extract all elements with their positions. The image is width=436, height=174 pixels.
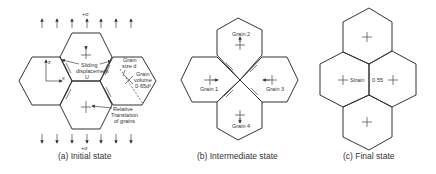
tensile-stress-arrows-bottom	[42, 134, 131, 143]
grain-volume-annotation: Grain volume 0·65d³	[120, 69, 152, 104]
grain-3-label: Grain 3	[266, 86, 284, 92]
panel-b-intermediate-state: Grain 2 Grain 1 Grain 3 Grain 4 (b) Inte…	[181, 18, 298, 161]
grain-3	[240, 57, 298, 102]
strain-value: 0·55	[372, 77, 383, 83]
svg-text:z: z	[48, 59, 51, 65]
grain-4	[217, 80, 262, 140]
grain-4-label: Grain 4	[232, 123, 250, 129]
grain-2	[217, 18, 262, 80]
grain-size-annotation: Grain size d	[122, 57, 136, 76]
panel-a-initial-state: +σ +σ	[19, 11, 156, 161]
svg-text:displacement: displacement	[76, 68, 109, 74]
caption-b: (b) Intermediate state	[197, 151, 278, 161]
svg-text:U: U	[85, 74, 89, 80]
panel-c-final-state: Strain 0·55 (c) Final state	[320, 8, 416, 161]
grain-bottom	[343, 95, 392, 150]
svg-text:of grains: of grains	[114, 118, 135, 124]
caption-c: (c) Final state	[343, 151, 395, 161]
tensile-stress-arrows-top	[42, 19, 131, 28]
grain-centers	[338, 32, 398, 127]
grain-1-label: Grain 1	[200, 86, 218, 92]
strain-label: Strain	[350, 77, 364, 83]
caption-a: (a) Initial state	[58, 151, 112, 161]
svg-text:size d: size d	[122, 63, 136, 69]
relative-translation-annotation: Relative Translation of grains	[92, 106, 138, 124]
grain-boundary-sliding-diagram: +σ +σ	[0, 0, 436, 174]
stress-label-top: +σ	[82, 11, 89, 17]
svg-text:0·65d³: 0·65d³	[135, 83, 151, 89]
svg-text:x: x	[62, 75, 65, 81]
grain-1	[181, 57, 240, 102]
grain-2-label: Grain 2	[232, 31, 250, 37]
